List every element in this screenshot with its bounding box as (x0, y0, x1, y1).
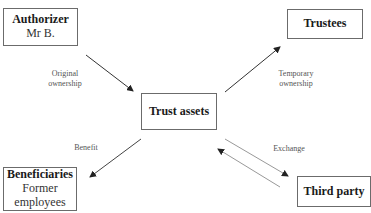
node-authorizer-subtitle: Mr B. (26, 27, 55, 41)
edge-label-line: ownership (270, 79, 322, 89)
node-third-party: Third party (297, 176, 371, 207)
arrow-exchange-to-trust-assets (218, 149, 280, 187)
node-trustees-title: Trustees (303, 17, 346, 31)
edge-label-line: Benefit (70, 143, 102, 153)
edge-label-line: Temporary (270, 69, 322, 79)
edge-label-original-ownership: Original ownership (40, 69, 90, 89)
edge-label-temporary-ownership: Temporary ownership (270, 69, 322, 89)
edge-label-line: Original (40, 69, 90, 79)
edge-label-line: ownership (40, 79, 90, 89)
edge-label-benefit: Benefit (70, 143, 102, 153)
edge-label-line: Exchange (268, 144, 310, 154)
node-trust-assets-title: Trust assets (149, 105, 209, 119)
node-beneficiaries-title: Beneficiaries (7, 168, 73, 182)
node-trustees: Trustees (287, 9, 363, 39)
node-beneficiaries-subtitle-line1: Former (22, 182, 57, 196)
node-authorizer: Authorizer Mr B. (3, 8, 78, 46)
node-beneficiaries: Beneficiaries Former employees (3, 167, 77, 211)
node-trust-assets: Trust assets (141, 93, 217, 130)
edge-label-exchange: Exchange (268, 144, 310, 154)
node-beneficiaries-subtitle-line2: employees (14, 196, 65, 210)
arrow-original-ownership (86, 55, 133, 91)
node-authorizer-title: Authorizer (12, 13, 69, 27)
node-third-party-title: Third party (303, 185, 364, 199)
